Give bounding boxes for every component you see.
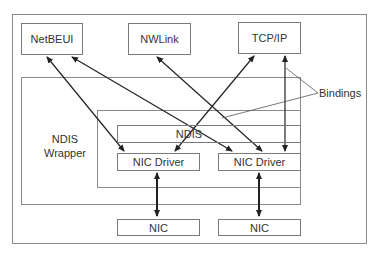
protocol-tcpip: TCP/IP [238, 22, 301, 54]
nic-driver-1: NIC Driver [117, 153, 200, 171]
ndis-wrapper-label-line2: Wrapper [40, 146, 90, 160]
nic-label: NIC [149, 222, 168, 234]
ndis-wrapper-label: NDIS Wrapper [40, 132, 90, 160]
protocol-netbeui: NetBEUI [21, 23, 83, 55]
nic-driver-label: NIC Driver [133, 156, 184, 168]
nic-driver-label: NIC Driver [234, 156, 285, 168]
ndis-label: NDIS [176, 128, 202, 140]
callout-line-2 [222, 93, 318, 118]
protocol-label: NWLink [140, 33, 179, 45]
nic-driver-2: NIC Driver [218, 153, 301, 171]
protocol-label: NetBEUI [31, 33, 74, 45]
callout-line-1 [286, 68, 318, 93]
protocol-nwlink: NWLink [128, 23, 191, 55]
protocol-label: TCP/IP [252, 32, 287, 44]
ndis-wrapper-label-line1: NDIS [40, 132, 90, 146]
nic-1: NIC [117, 219, 200, 236]
nic-label: NIC [250, 222, 269, 234]
ndis-box: NDIS [117, 125, 301, 143]
bindings-callout-label: Bindings [319, 86, 361, 100]
nic-2: NIC [218, 219, 301, 236]
